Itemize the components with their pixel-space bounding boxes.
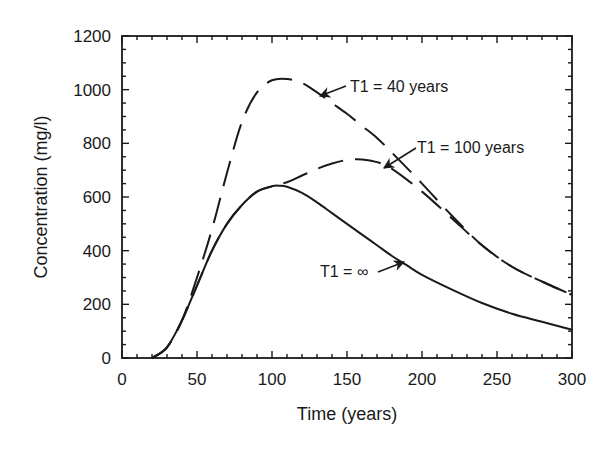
x-tick-label: 0 xyxy=(117,370,126,389)
annotation-label: T1 = ∞ xyxy=(320,263,368,280)
x-tick-label: 100 xyxy=(258,370,286,389)
y-axis-title: Concentration (mg/l) xyxy=(31,115,51,278)
x-tick-label: 250 xyxy=(483,370,511,389)
annotation-t1-inf: T1 = ∞ xyxy=(320,262,404,280)
y-tick-label: 800 xyxy=(83,134,111,153)
y-tick-label: 1200 xyxy=(73,27,111,46)
annotation-label: T1 = 40 years xyxy=(350,78,448,95)
plot-frame xyxy=(122,36,572,358)
arrow-icon xyxy=(384,148,416,168)
axis-ticks xyxy=(122,36,572,358)
annotation-t1-40: T1 = 40 years xyxy=(320,78,448,96)
annotation-t1-100: T1 = 100 years xyxy=(384,139,524,168)
x-tick-label: 200 xyxy=(408,370,436,389)
x-axis-title: Time (years) xyxy=(297,404,397,424)
x-tick-label: 50 xyxy=(188,370,207,389)
x-tick-label: 300 xyxy=(558,370,586,389)
annotation-label: T1 = 100 years xyxy=(417,139,524,156)
axis-tick-labels: 050100150200250300020040060080010001200 xyxy=(73,27,586,389)
concentration-chart: 050100150200250300020040060080010001200 … xyxy=(0,0,612,452)
y-tick-label: 0 xyxy=(102,349,111,368)
series-t1-40-years xyxy=(152,79,572,358)
y-tick-label: 200 xyxy=(83,295,111,314)
arrow-icon xyxy=(320,86,346,96)
x-tick-label: 150 xyxy=(333,370,361,389)
y-tick-label: 1000 xyxy=(73,81,111,100)
y-tick-label: 400 xyxy=(83,242,111,261)
y-tick-label: 600 xyxy=(83,188,111,207)
arrow-icon xyxy=(378,262,404,272)
series-t1-100-years xyxy=(152,159,572,358)
